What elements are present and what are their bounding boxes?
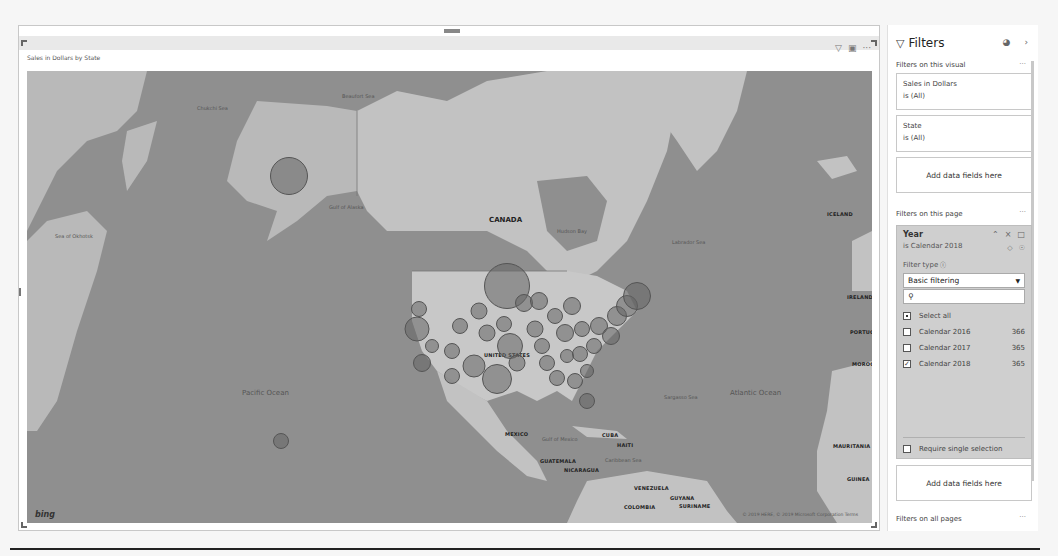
option-count: 365 (1007, 360, 1025, 368)
checkbox-unchecked[interactable] (903, 344, 911, 352)
eye-icon[interactable]: ☉ (1019, 244, 1025, 252)
bubble-state[interactable] (405, 317, 430, 342)
add-data-fields-visual[interactable]: Add data fields here (896, 157, 1032, 193)
map-label: ICELAND (827, 211, 853, 217)
checkbox-checked[interactable]: ✓ (903, 360, 911, 368)
bubble-state[interactable] (527, 321, 544, 338)
map-label: VENEZUELA (634, 485, 669, 491)
bubble-state[interactable] (574, 321, 590, 337)
more-options-icon[interactable]: ··· (1019, 208, 1026, 216)
bubble-state[interactable] (602, 327, 620, 345)
map-label: MOROCCO (852, 361, 872, 367)
filters-title: Filters (908, 36, 944, 50)
map-copyright[interactable]: © 2019 HERE, © 2019 Microsoft Corporatio… (742, 512, 858, 517)
filter-card-sales[interactable]: Sales in Dollars is (All) (896, 73, 1032, 110)
bubble-state[interactable] (586, 338, 602, 354)
bubble-state[interactable] (444, 343, 460, 359)
option-label: Calendar 2016 (919, 328, 1007, 336)
bubble-state[interactable] (479, 325, 496, 342)
filter-search-input[interactable]: ⚲ (903, 289, 1025, 304)
divider (10, 548, 1040, 550)
resize-handle-top-right[interactable] (871, 40, 877, 46)
bubble-state[interactable] (539, 355, 555, 371)
filter-option-2016[interactable]: Calendar 2016 366 (903, 326, 1025, 338)
bubble-state[interactable] (579, 393, 595, 409)
bubble-state[interactable] (580, 364, 594, 378)
map-label: Sea of Okhotsk (55, 233, 93, 239)
filter-type-dropdown[interactable]: Basic filtering ▼ (903, 273, 1025, 288)
map-label: MEXICO (505, 431, 528, 437)
collapse-chevron-icon[interactable]: ⌃ (992, 230, 999, 239)
search-icon: ⚲ (908, 292, 914, 301)
map-label: SURINAME (679, 503, 710, 509)
map-label: ECUADOR (589, 522, 618, 523)
filter-option-2018[interactable]: ✓ Calendar 2018 365 (903, 358, 1025, 370)
more-options-icon[interactable]: ··· (1019, 60, 1026, 68)
section-filters-on-visual: Filters on this visual (896, 61, 966, 69)
option-label: Select all (919, 312, 1007, 320)
require-single-label: Require single selection (919, 445, 1002, 453)
bubble-state[interactable] (623, 282, 651, 310)
eraser-icon[interactable]: ◇ (1007, 244, 1012, 252)
map-canvas[interactable]: Chukchi Sea Beaufort Sea Sea of Okhotsk … (27, 71, 872, 523)
filter-funnel-icon: ▽ (896, 37, 904, 50)
map-label: Sargasso Sea (664, 394, 698, 400)
bubble-hawaii[interactable] (273, 433, 289, 449)
bubble-state[interactable] (530, 292, 548, 310)
map-label: Labrador Sea (672, 239, 705, 245)
report-canvas: ▽ ▣ ··· Sales in Dollars by State (0, 0, 1058, 556)
visual-header (19, 36, 879, 50)
checkbox-partial[interactable] (903, 312, 911, 320)
more-options-icon[interactable]: ··· (1019, 513, 1026, 521)
bubble-state[interactable] (413, 354, 431, 372)
clear-filter-icon[interactable]: × (1005, 230, 1012, 239)
map-label: PORTUGAL (850, 329, 872, 335)
bubble-state[interactable] (563, 297, 581, 315)
bubble-state[interactable] (444, 368, 460, 384)
option-count: 366 (1007, 328, 1025, 336)
bubble-state[interactable] (482, 364, 512, 394)
filter-option-2017[interactable]: Calendar 2017 365 (903, 342, 1025, 354)
bubble-state[interactable] (547, 308, 563, 324)
bubble-alaska[interactable] (270, 157, 308, 195)
map-label: CANADA (489, 216, 522, 224)
bubble-state[interactable] (549, 370, 565, 386)
bubble-state[interactable] (567, 373, 583, 389)
checkbox-unchecked[interactable] (903, 445, 911, 453)
lock-icon[interactable]: □ (1017, 230, 1025, 239)
map-label: Gulf of Alaska (329, 204, 364, 210)
more-options-icon[interactable]: ··· (862, 43, 871, 53)
bubble-state[interactable] (452, 318, 468, 334)
focus-mode-icon[interactable]: ▣ (848, 43, 857, 53)
bubble-state[interactable] (556, 324, 574, 342)
map-visual[interactable]: ▽ ▣ ··· Sales in Dollars by State (18, 25, 880, 531)
filter-card-state[interactable]: State is (All) (896, 115, 1032, 152)
require-single-selection[interactable]: Require single selection (903, 445, 1002, 453)
bubble-state[interactable] (425, 339, 439, 353)
option-count: 365 (1007, 344, 1025, 352)
filter-card-year[interactable]: Year ⌃ × □ is Calendar 2018 ◇ ☉ Filter t… (896, 225, 1032, 459)
filter-condition: is (All) (903, 132, 1025, 144)
map-label: GUYANA (670, 495, 694, 501)
map-label: Chukchi Sea (197, 105, 228, 111)
bubble-state[interactable] (509, 355, 526, 372)
map-label: Hudson Bay (557, 228, 587, 234)
filters-pane: ▽ Filters ◕ › Filters on this visual ···… (887, 25, 1038, 531)
info-icon: ⓘ (940, 261, 946, 268)
add-data-fields-page[interactable]: Add data fields here (896, 465, 1032, 501)
bubble-state[interactable] (534, 338, 550, 354)
visual-title: Sales in Dollars by State (27, 54, 100, 61)
map-label: HAITI (617, 442, 633, 448)
filter-option-select-all[interactable]: Select all (903, 310, 1025, 322)
bubble-state[interactable] (496, 316, 512, 332)
resize-handle-top-left[interactable] (21, 40, 27, 46)
collapse-pane-chevron-icon[interactable]: › (1024, 37, 1028, 47)
checkbox-unchecked[interactable] (903, 328, 911, 336)
visibility-icon[interactable]: ◕ (1003, 37, 1011, 47)
map-label: CUBA (602, 432, 618, 438)
bubble-state[interactable] (471, 303, 488, 320)
drag-handle[interactable] (444, 29, 460, 33)
filter-icon[interactable]: ▽ (835, 43, 842, 53)
resize-handle-left[interactable] (19, 288, 21, 296)
bubble-state[interactable] (411, 301, 427, 317)
